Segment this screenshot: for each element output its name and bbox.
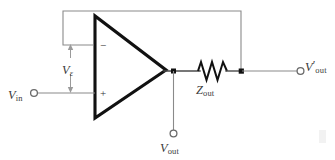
label-v-out: Vout — [160, 139, 179, 156]
label-z-out-subscript: out — [203, 88, 214, 98]
label-v-out-prime-subscript: out — [315, 65, 326, 75]
scan-artifact — [319, 130, 326, 143]
label-v-epsilon: Vε — [62, 61, 73, 78]
label-z-out: Zout — [196, 81, 214, 98]
output-terminal-external — [297, 68, 304, 75]
operational-amplifier: − + — [95, 16, 166, 118]
label-v-out-prime-symbol: V — [305, 60, 313, 74]
label-v-out-symbol: V — [160, 141, 168, 155]
label-v-out-prime: V′out — [305, 58, 327, 75]
output-terminal-internal — [170, 130, 177, 137]
label-v-out-subscript: out — [168, 146, 179, 156]
noninverting-input-sign: + — [100, 87, 106, 99]
inverting-input-sign: − — [100, 39, 106, 51]
label-v-epsilon-symbol: V — [62, 63, 70, 77]
label-z-out-symbol: Z — [196, 83, 203, 97]
output-impedance-resistor — [198, 62, 227, 80]
label-v-epsilon-subscript: ε — [70, 68, 73, 78]
circuit-schematic-canvas: − + — [0, 0, 335, 160]
input-terminal — [31, 90, 38, 97]
label-v-in-subscript: in — [16, 93, 23, 103]
label-v-in: Vin — [8, 86, 23, 103]
label-v-in-symbol: V — [8, 88, 16, 102]
circuit-diagram-figure: − + — [0, 0, 335, 160]
